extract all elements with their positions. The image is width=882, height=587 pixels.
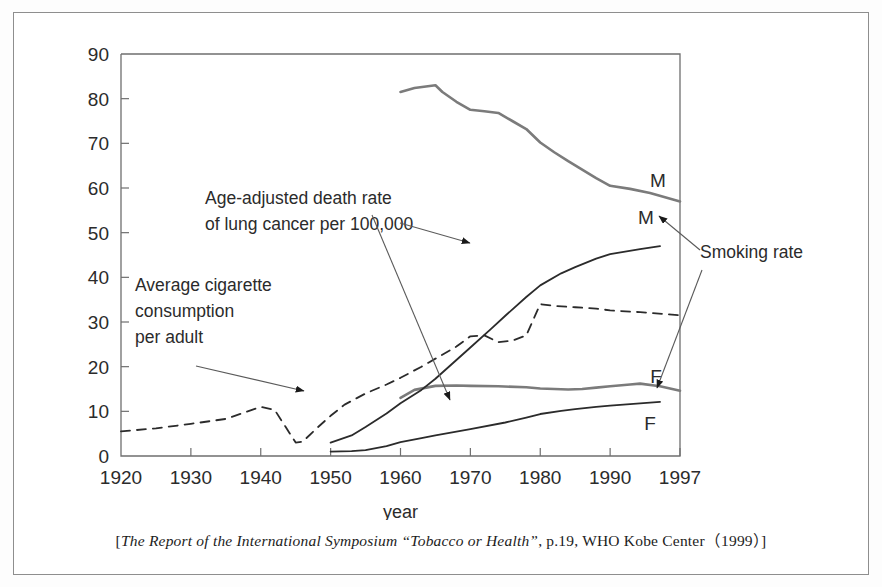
annotation-lung-cancer: of lung cancer per 100,000 [205,214,413,234]
chart-canvas: 0102030405060708090192019301940195019601… [0,0,882,520]
caption-close-bracket: ] [761,532,766,549]
y-tick-label: 60 [88,178,109,199]
x-tick-label: 1970 [449,467,491,488]
annotation-smoking-rate: Smoking rate [700,242,803,262]
caption-title-italic: The Report of the International Symposiu… [121,532,538,549]
y-tick-label: 30 [88,312,109,333]
series-line [401,384,681,398]
annotation-lung-cancer: Age-adjusted death rate [205,188,392,208]
y-tick-label: 70 [88,133,109,154]
annotation-leader [196,366,304,391]
caption-rest: , p.19, WHO Kobe Center（1999） [538,532,761,549]
annotations: Age-adjusted death rateof lung cancer pe… [135,188,803,400]
source-caption: [The Report of the International Symposi… [0,528,882,550]
figure-root: 0102030405060708090192019301940195019601… [0,0,882,587]
x-tick-label: 1930 [170,467,212,488]
series-endpoint-labels: MFMF [638,170,666,434]
y-tick-label: 20 [88,357,109,378]
series-endpoint-label: F [644,413,656,434]
y-tick-label: 40 [88,267,109,288]
x-tick-label: 1980 [519,467,561,488]
series-endpoint-label: M [650,170,666,191]
series-line [401,85,681,201]
x-tick-label: 1997 [659,467,701,488]
y-tick-label: 90 [88,44,109,65]
x-tick-label: 1950 [309,467,351,488]
series-line [331,246,660,443]
y-tick-label: 0 [98,446,109,467]
annotation-cigarette: consumption [135,301,234,321]
series-endpoint-label: M [638,207,654,228]
series-endpoint-label: F [650,366,662,387]
y-tick-label: 80 [88,89,109,110]
series-line [121,304,680,442]
y-tick-label: 10 [88,401,109,422]
y-tick-label: 50 [88,223,109,244]
annotation-cigarette: Average cigarette [135,275,272,295]
line-chart: 0102030405060708090192019301940195019601… [0,0,882,520]
x-tick-label: 1940 [240,467,282,488]
x-axis-title: year [383,502,418,520]
data-series [121,85,680,451]
series-line [331,402,660,452]
x-tick-label: 1960 [379,467,421,488]
annotation-cigarette: per adult [135,327,203,347]
annotation-leader [372,215,450,400]
x-tick-label: 1990 [589,467,631,488]
x-tick-label: 1920 [100,467,142,488]
